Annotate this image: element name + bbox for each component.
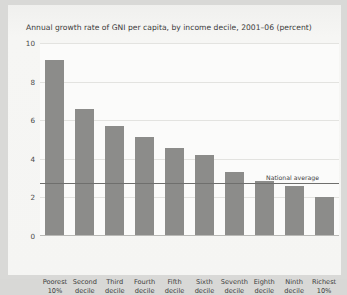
y-axis-tick-2: 2 [30,193,35,202]
national-average-label: National average [266,174,319,181]
chart-panel: Annual growth rate of GNI per capita, by… [8,5,341,275]
gridline [40,82,339,83]
y-axis-tick-4: 4 [30,154,35,163]
bar [105,126,124,236]
y-axis-tick-0: 0 [30,232,35,241]
bar [75,109,94,236]
chart-title: Annual growth rate of GNI per capita, by… [26,23,312,32]
bar [165,148,184,236]
bar [225,172,244,236]
national-average-line [40,183,339,184]
y-axis-tick-6: 6 [30,116,35,125]
x-axis-line [40,235,339,236]
bar [45,60,64,236]
bar [195,155,214,236]
bar [135,137,154,236]
bar [255,181,274,236]
x-axis-tick-label-line: Richest [304,278,344,287]
bar [285,186,304,236]
x-axis-tick-label: Richest10% [304,278,344,295]
y-axis-tick-8: 8 [30,77,35,86]
gridline [40,43,339,44]
y-axis-tick-10: 10 [26,39,35,48]
x-axis-tick-label-line: 10% [304,287,344,295]
chart-panel-surface: Annual growth rate of GNI per capita, by… [8,5,341,275]
bar [315,197,334,236]
plot-area: 0246810 National average Poorest10%Secon… [40,43,339,236]
